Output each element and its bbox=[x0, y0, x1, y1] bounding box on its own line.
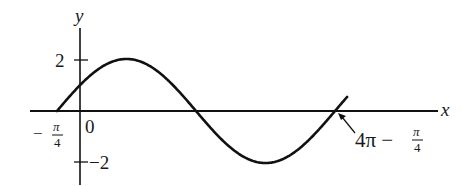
right-root-denominator: 4 bbox=[414, 140, 421, 155]
origin-label: 0 bbox=[85, 116, 95, 137]
annotation-arrow-line bbox=[342, 117, 355, 133]
annotation-arrowhead bbox=[338, 113, 346, 120]
right-root-prefix: 4π − bbox=[355, 128, 393, 152]
sine-chart: y x 2 −2 0 − π 4 4π − π 4 bbox=[0, 0, 462, 186]
right-root-numerator: π bbox=[413, 124, 420, 139]
x-axis-label: x bbox=[440, 99, 450, 120]
left-root-numerator: π bbox=[53, 119, 60, 134]
left-root-denominator: 4 bbox=[54, 135, 61, 150]
left-root-sign: − bbox=[33, 124, 43, 143]
y-axis-label: y bbox=[73, 5, 84, 26]
y-tick-label-2: 2 bbox=[55, 50, 65, 71]
y-tick-label-neg2: −2 bbox=[89, 152, 109, 173]
